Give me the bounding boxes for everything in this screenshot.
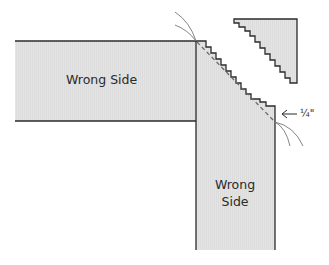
vertical-fabric-strip [196,41,275,250]
vertical-strip-label-line2: Side [204,196,266,209]
seam-allowance-label: ¼" [300,109,314,119]
left-arrow-icon [282,110,297,118]
trimmed-corner-triangle [234,19,297,83]
thread-tails-top [175,12,196,41]
horizontal-strip-label: Wrong Side [66,74,128,87]
mitered-corner-diagram [0,0,329,265]
vertical-strip-label-line1: Wrong [204,179,266,192]
thread-tails-bottom [275,122,303,146]
